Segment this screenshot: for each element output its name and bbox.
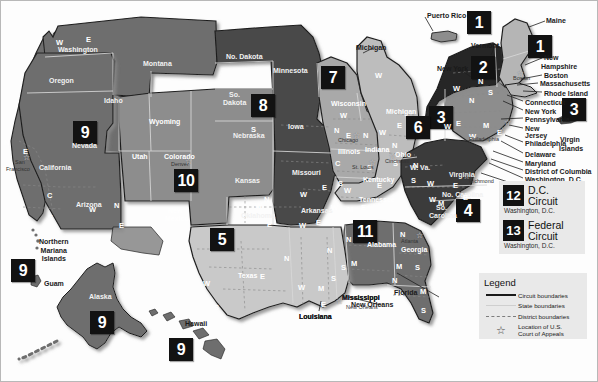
circuit-badge-7[interactable]: 7 <box>321 66 345 89</box>
circuit-badge-9-hawaii[interactable]: 9 <box>169 338 193 361</box>
circuit-12-name: D.C. Circuit <box>528 185 558 207</box>
legend-label-court-location-line2: Court of Appeals <box>518 330 564 337</box>
special-circuits-panel: 12 D.C. Circuit Washington, D.C. 13 Fede… <box>499 181 585 254</box>
circuit-badge-13: 13 <box>503 220 524 241</box>
puerto-rico-shape <box>431 31 457 42</box>
circuit-badge-8[interactable]: 8 <box>251 94 275 117</box>
legend-row-court-location: ☆ Location of U.S. Court of Appeals <box>484 323 582 337</box>
circuit-12-name-line2: Circuit <box>528 196 558 207</box>
circuit-badge-6[interactable]: 6 <box>406 116 430 139</box>
legend-title: Legend <box>484 277 582 288</box>
circuit-badge-4[interactable]: 4 <box>456 199 480 222</box>
circuit-13-name: Federal Circuit <box>528 220 564 242</box>
district-boundary-line-icon <box>484 312 518 320</box>
legend-label-state-boundaries: State boundaries <box>518 302 565 309</box>
circuit-badge-1-puerto-rico[interactable]: 1 <box>467 11 491 34</box>
circuit-badge-11[interactable]: 11 <box>353 220 377 243</box>
court-location-star-icon: ☆ <box>484 326 518 334</box>
circuit-map-page: 112334567899991011 WashingtonOregonIdaho… <box>0 0 598 382</box>
circuit-badge-5[interactable]: 5 <box>210 228 234 251</box>
legend-row-district-boundaries: District boundaries <box>484 312 582 320</box>
circuit-badge-9-nevada[interactable]: 9 <box>73 121 97 144</box>
circuit-badge-9-northern-mariana[interactable]: 9 <box>11 259 35 282</box>
legend-label-district-boundaries: District boundaries <box>518 313 569 320</box>
circuit-13-name-line2: Circuit <box>528 231 564 242</box>
legend-label-circuit-boundaries: Circuit boundaries <box>518 292 568 299</box>
legend-row-circuit-boundaries: Circuit boundaries <box>484 291 582 299</box>
circuit-badge-2[interactable]: 2 <box>471 56 495 79</box>
circuit-badge-12: 12 <box>503 185 524 206</box>
legend-panel: Legend Circuit boundaries State boundari… <box>479 273 587 339</box>
circuit-badge-10[interactable]: 10 <box>174 169 198 192</box>
circuit-boundary-line-icon <box>484 291 518 299</box>
legend-row-state-boundaries: State boundaries <box>484 302 582 310</box>
circuit-12-city: Washington, D.C. <box>504 207 581 214</box>
state-boundary-line-icon <box>484 302 518 310</box>
circuit-badge-1-new-england[interactable]: 1 <box>528 35 552 58</box>
special-circuit-12: 12 D.C. Circuit Washington, D.C. <box>503 185 581 214</box>
circuit-badge-9-alaska[interactable]: 9 <box>90 311 114 334</box>
legend-label-court-location: Location of U.S. Court of Appeals <box>518 323 564 337</box>
special-circuit-13: 13 Federal Circuit Washington, D.C. <box>503 220 581 249</box>
circuit-badge-3-virgin-islands[interactable]: 3 <box>562 98 586 121</box>
circuit-badge-3-pennsylvania[interactable]: 3 <box>429 106 453 129</box>
legend-label-court-location-line1: Location of U.S. <box>518 323 562 330</box>
circuit-13-city: Washington, D.C. <box>504 242 581 249</box>
